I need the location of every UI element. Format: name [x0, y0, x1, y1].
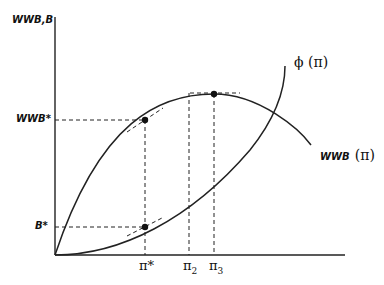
pi-star-label: π* [139, 258, 154, 273]
phi-curve [55, 66, 285, 255]
b-star-label: B* [35, 220, 48, 231]
wwb-star-label: WWB* [16, 113, 51, 124]
b-star-point [142, 224, 148, 230]
peak-point [211, 91, 217, 97]
phi-curve-label: ϕ (π) [294, 54, 328, 70]
wwb-curve-label: WWB (π) [320, 145, 375, 164]
pi3-label: π3 [209, 258, 223, 276]
wwb-star-point [142, 117, 148, 123]
y-axis-label: WWB,B [12, 14, 53, 25]
wwb-curve [55, 94, 311, 255]
pi2-label: π2 [183, 258, 197, 276]
diagram-canvas [0, 0, 384, 285]
